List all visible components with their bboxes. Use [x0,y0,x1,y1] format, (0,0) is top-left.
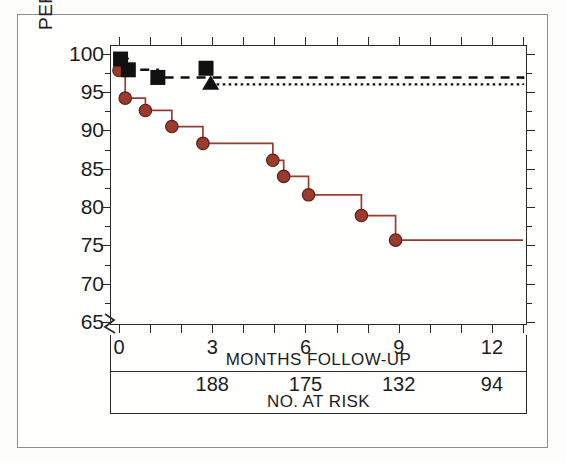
marker-square-2 [150,70,165,85]
marker-circle-7 [302,189,314,201]
x-tick-top-3 [212,37,213,46]
marker-circle-2 [139,104,151,116]
x-tick-top-13 [523,37,524,46]
x-tick-top-6 [305,37,306,46]
series-solid-circle-curve [113,64,523,246]
months-axis-row: 036912 MONTHS FOLLOW-UP [110,335,527,372]
x-tick-top-1 [150,37,151,46]
figure-container: PERCENT SURVIVAL 65707580859095100 03691… [0,0,566,463]
plot-area: PERCENT SURVIVAL 65707580859095100 [110,45,527,325]
y-tick-label-70: 70 [81,272,104,296]
marker-circle-1 [119,92,131,104]
y-tick-label-95: 95 [81,80,104,104]
y-tick-label-90: 90 [81,118,104,142]
series-dashed-square-curve [113,52,523,85]
marker-circle-8 [355,209,367,221]
marker-square-1 [121,62,136,77]
series-line-solid-circle-curve [119,71,523,241]
y-tick-label-85: 85 [81,157,104,181]
x-tick-top-8 [368,37,369,46]
y-tick-label-80: 80 [81,195,104,219]
marker-circle-6 [278,170,290,182]
y-tick-label-75: 75 [81,233,104,257]
x-tick-top-11 [461,37,462,46]
y-axis-label: PERCENT SURVIVAL [35,0,57,72]
y-tick-label-100: 100 [69,42,104,66]
marker-circle-4 [197,137,209,149]
x-tick-top-9 [399,37,400,46]
marker-square-3 [199,61,214,76]
x-tick-top-10 [430,37,431,46]
x-axis-caption: MONTHS FOLLOW-UP [111,350,526,370]
x-tick-top-2 [181,37,182,46]
marker-circle-9 [389,234,401,246]
marker-circle-5 [267,154,279,166]
y-tick-label-65: 65 [81,310,104,334]
at-risk-caption: NO. AT RISK [111,392,526,412]
x-tick-top-4 [243,37,244,46]
marker-circle-3 [166,120,178,132]
x-tick-top-12 [492,37,493,46]
chart-series-layer [111,46,528,326]
x-tick-top-0 [119,37,120,46]
series-line-dashed-square-curve [119,59,523,79]
at-risk-row: 18817513294 NO. AT RISK [110,372,527,414]
x-tick-top-7 [337,37,338,46]
x-tick-top-5 [274,37,275,46]
series-line-dotted-triangle-curve [211,84,523,85]
